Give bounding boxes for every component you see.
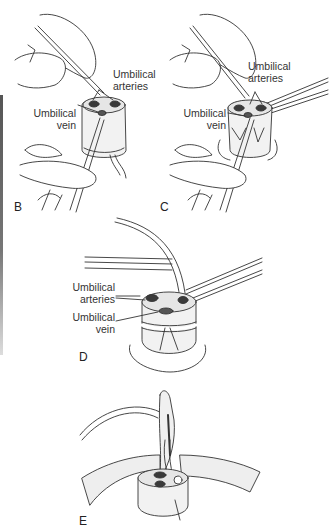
panel-c-label-vein: Umbilical vein — [174, 107, 226, 131]
panel-d-label-arteries: Umbilical arteries — [60, 281, 115, 305]
label-text: Umbilical arteries — [113, 68, 156, 92]
label-text: Umbilical vein — [33, 107, 76, 131]
label-text: Umbilical vein — [72, 311, 115, 335]
panel-b-label-arteries: Umbilical arteries — [113, 68, 156, 92]
panel-d-letter: D — [79, 350, 88, 364]
label-text: Umbilical arteries — [72, 281, 115, 305]
label-text: Umbilical vein — [183, 107, 226, 131]
panel-d-label-vein: Umbilical vein — [60, 311, 115, 335]
panel-e-drawing — [80, 391, 260, 520]
panel-b-letter: B — [14, 200, 22, 214]
panel-b-label-vein: Umbilical vein — [26, 107, 76, 131]
panel-e-letter: E — [79, 514, 87, 528]
panel-c-label-arteries: Umbilical arteries — [248, 60, 291, 84]
label-text: Umbilical arteries — [248, 60, 291, 84]
panel-c-letter: C — [160, 200, 169, 214]
